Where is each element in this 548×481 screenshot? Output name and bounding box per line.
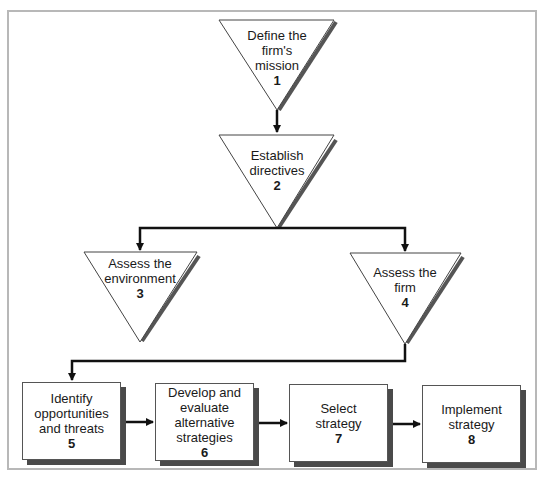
step-7-number: 7 bbox=[335, 431, 342, 446]
step-6-line-2: evaluate bbox=[177, 400, 232, 415]
step-6-line-4: strategies bbox=[173, 430, 235, 445]
step-6-line-1: Develop and bbox=[165, 385, 244, 400]
step-3-line-2: environment bbox=[90, 271, 190, 286]
step-4-line-1: Assess the bbox=[355, 265, 455, 280]
box-step-6: Develop and evaluate alternative strateg… bbox=[155, 383, 254, 461]
edge-2-to-3 bbox=[140, 228, 277, 250]
step-5-line-3: and threats bbox=[36, 421, 107, 436]
step-4-label: Assess the firm 4 bbox=[355, 265, 455, 310]
step-8-line-2: strategy bbox=[445, 417, 497, 432]
step-7-line-1: Select bbox=[317, 401, 359, 416]
box-step-7: Select strategy 7 bbox=[289, 384, 388, 462]
step-2-label: Establish directives 2 bbox=[227, 148, 327, 193]
step-1-label: Define the firm's mission 1 bbox=[227, 28, 327, 88]
box-step-8: Implement strategy 8 bbox=[422, 385, 521, 463]
step-6-number: 6 bbox=[201, 445, 208, 460]
step-5-number: 5 bbox=[68, 436, 75, 451]
box-step-5: Identify opportunities and threats 5 bbox=[22, 382, 121, 460]
step-8-number: 8 bbox=[468, 432, 475, 447]
step-3-label: Assess the environment 3 bbox=[90, 256, 190, 301]
step-1-line-3: mission bbox=[227, 58, 327, 73]
step-1-line-1: Define the bbox=[227, 28, 327, 43]
step-2-line-2: directives bbox=[227, 163, 327, 178]
step-2-number: 2 bbox=[227, 178, 327, 193]
step-3-line-1: Assess the bbox=[90, 256, 190, 271]
step-5-line-2: opportunities bbox=[31, 406, 111, 421]
edge-2-to-4 bbox=[277, 228, 405, 251]
step-8-line-1: Implement bbox=[438, 402, 505, 417]
step-4-number: 4 bbox=[355, 295, 455, 310]
edge-4-to-5 bbox=[72, 344, 405, 380]
step-2-line-1: Establish bbox=[227, 148, 327, 163]
step-1-number: 1 bbox=[227, 73, 327, 88]
step-5-line-1: Identify bbox=[48, 391, 96, 406]
step-1-line-2: firm's bbox=[227, 43, 327, 58]
step-4-line-2: firm bbox=[355, 280, 455, 295]
step-3-number: 3 bbox=[90, 286, 190, 301]
step-7-line-2: strategy bbox=[312, 416, 364, 431]
step-6-line-3: alternative bbox=[172, 415, 238, 430]
